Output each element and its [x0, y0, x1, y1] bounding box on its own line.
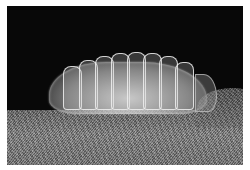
- larva-segment: [175, 62, 194, 110]
- larva-tail: [195, 74, 217, 112]
- photograph: [7, 6, 243, 165]
- larva: [45, 46, 213, 116]
